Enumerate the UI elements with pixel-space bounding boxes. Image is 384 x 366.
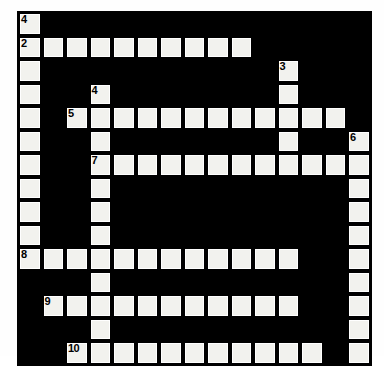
crossword-cell-block: [324, 130, 348, 154]
crossword-cell-open[interactable]: [112, 341, 136, 365]
crossword-cell-open[interactable]: [136, 294, 160, 318]
crossword-cell-open[interactable]: [206, 106, 230, 130]
crossword-cell-open[interactable]: [253, 341, 277, 365]
crossword-cell-open[interactable]: [18, 153, 42, 177]
crossword-cell-open[interactable]: [206, 341, 230, 365]
crossword-cell-open[interactable]: [89, 36, 113, 60]
crossword-cell-open[interactable]: 4: [18, 12, 42, 36]
crossword-cell-open[interactable]: 8: [18, 247, 42, 271]
crossword-cell-open[interactable]: [277, 153, 301, 177]
crossword-cell-open[interactable]: [277, 247, 301, 271]
crossword-cell-open[interactable]: [18, 224, 42, 248]
crossword-cell-open[interactable]: 9: [42, 294, 66, 318]
crossword-cell-open[interactable]: [89, 247, 113, 271]
crossword-cell-open[interactable]: [347, 271, 371, 295]
crossword-cell-open[interactable]: [136, 106, 160, 130]
crossword-cell-open[interactable]: [159, 294, 183, 318]
crossword-cell-open[interactable]: 4: [89, 83, 113, 107]
crossword-cell-open[interactable]: [65, 36, 89, 60]
crossword-cell-open[interactable]: [136, 341, 160, 365]
crossword-cell-open[interactable]: [277, 130, 301, 154]
crossword-grid[interactable]: 42345678910: [17, 11, 372, 366]
crossword-cell-open[interactable]: 3: [277, 59, 301, 83]
crossword-cell-open[interactable]: [89, 224, 113, 248]
crossword-cell-open[interactable]: [347, 294, 371, 318]
crossword-cell-open[interactable]: [347, 318, 371, 342]
crossword-cell-block: [206, 83, 230, 107]
crossword-cell-open[interactable]: [18, 177, 42, 201]
crossword-cell-open[interactable]: [347, 200, 371, 224]
crossword-cell-open[interactable]: [253, 153, 277, 177]
crossword-cell-open[interactable]: [112, 294, 136, 318]
crossword-cell-open[interactable]: [112, 247, 136, 271]
crossword-cell-open[interactable]: [206, 247, 230, 271]
crossword-cell-open[interactable]: [89, 318, 113, 342]
crossword-cell-open[interactable]: [136, 36, 160, 60]
crossword-cell-open[interactable]: [136, 247, 160, 271]
crossword-cell-open[interactable]: [230, 247, 254, 271]
crossword-cell-open[interactable]: [347, 341, 371, 365]
crossword-cell-open[interactable]: [159, 247, 183, 271]
crossword-cell-open[interactable]: [159, 36, 183, 60]
crossword-cell-open[interactable]: [347, 177, 371, 201]
crossword-cell-open[interactable]: [324, 153, 348, 177]
crossword-cell-open[interactable]: [159, 106, 183, 130]
crossword-cell-open[interactable]: [300, 341, 324, 365]
crossword-cell-open[interactable]: [42, 247, 66, 271]
crossword-cell-open[interactable]: [347, 247, 371, 271]
crossword-cell-open[interactable]: [89, 177, 113, 201]
crossword-cell-open[interactable]: [89, 200, 113, 224]
crossword-cell-open[interactable]: [136, 153, 160, 177]
crossword-cell-open[interactable]: [277, 294, 301, 318]
crossword-cell-open[interactable]: [253, 106, 277, 130]
crossword-cell-open[interactable]: [230, 341, 254, 365]
crossword-cell-open[interactable]: [42, 36, 66, 60]
crossword-cell-open[interactable]: [18, 106, 42, 130]
crossword-cell-open[interactable]: [65, 294, 89, 318]
crossword-cell-open[interactable]: [253, 294, 277, 318]
crossword-cell-open[interactable]: 5: [65, 106, 89, 130]
crossword-cell-open[interactable]: [230, 153, 254, 177]
crossword-cell-open[interactable]: [159, 153, 183, 177]
crossword-cell-open[interactable]: [183, 153, 207, 177]
crossword-cell-open[interactable]: [206, 294, 230, 318]
crossword-cell-open[interactable]: [18, 200, 42, 224]
crossword-cell-open[interactable]: [347, 224, 371, 248]
crossword-cell-open[interactable]: 2: [18, 36, 42, 60]
crossword-cell-open[interactable]: [89, 271, 113, 295]
crossword-cell-open[interactable]: 10: [65, 341, 89, 365]
crossword-cell-open[interactable]: 7: [89, 153, 113, 177]
crossword-cell-open[interactable]: [89, 341, 113, 365]
crossword-cell-open[interactable]: [159, 341, 183, 365]
crossword-cell-open[interactable]: [277, 341, 301, 365]
crossword-cell-open[interactable]: [230, 106, 254, 130]
crossword-cell-open[interactable]: [183, 106, 207, 130]
crossword-cell-open[interactable]: [253, 247, 277, 271]
crossword-cell-open[interactable]: [89, 294, 113, 318]
crossword-cell-open[interactable]: 6: [347, 130, 371, 154]
crossword-cell-open[interactable]: [183, 36, 207, 60]
crossword-cell-open[interactable]: [65, 247, 89, 271]
crossword-cell-open[interactable]: [183, 247, 207, 271]
crossword-cell-open[interactable]: [18, 59, 42, 83]
crossword-cell-open[interactable]: [206, 153, 230, 177]
crossword-cell-open[interactable]: [112, 36, 136, 60]
crossword-cell-open[interactable]: [89, 130, 113, 154]
crossword-cell-open[interactable]: [230, 294, 254, 318]
crossword-cell-open[interactable]: [230, 36, 254, 60]
crossword-cell-open[interactable]: [112, 153, 136, 177]
crossword-cell-open[interactable]: [300, 153, 324, 177]
crossword-cell-open[interactable]: [206, 36, 230, 60]
crossword-cell-open[interactable]: [277, 106, 301, 130]
crossword-cell-open[interactable]: [89, 106, 113, 130]
crossword-cell-open[interactable]: [112, 106, 136, 130]
crossword-cell-open[interactable]: [18, 130, 42, 154]
crossword-cell-open[interactable]: [277, 83, 301, 107]
crossword-cell-open[interactable]: [300, 106, 324, 130]
crossword-cell-open[interactable]: [18, 83, 42, 107]
crossword-cell-block: [230, 200, 254, 224]
crossword-cell-open[interactable]: [183, 341, 207, 365]
crossword-cell-open[interactable]: [347, 153, 371, 177]
crossword-cell-open[interactable]: [324, 106, 348, 130]
crossword-cell-open[interactable]: [183, 294, 207, 318]
